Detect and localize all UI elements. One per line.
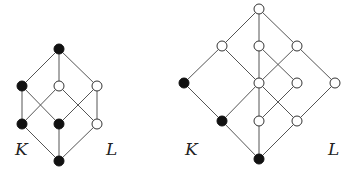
open-node bbox=[92, 81, 102, 91]
open-node bbox=[54, 81, 64, 91]
lattice-edge bbox=[222, 121, 259, 159]
labels-layer: KLKL bbox=[14, 139, 339, 159]
left-lattice-edges bbox=[22, 49, 97, 161]
open-node bbox=[254, 78, 264, 88]
filled-node bbox=[17, 119, 27, 129]
open-node bbox=[292, 78, 302, 88]
lattice-edge bbox=[259, 9, 297, 46]
lattice-edge bbox=[59, 124, 97, 161]
lattice-edge bbox=[222, 46, 259, 83]
right-lattice-label-l: L bbox=[327, 139, 339, 159]
filled-node bbox=[17, 81, 27, 91]
left-lattice-label-l: L bbox=[105, 139, 117, 159]
lattice-edge bbox=[184, 46, 222, 83]
nodes-layer bbox=[17, 4, 340, 166]
lattice-edge bbox=[22, 49, 59, 86]
left-lattice-label-k: K bbox=[14, 139, 29, 159]
lattice-diagrams-canvas: KLKL bbox=[0, 0, 356, 175]
edges-layer bbox=[22, 9, 335, 161]
filled-node bbox=[217, 116, 227, 126]
right-lattice-label-k: K bbox=[184, 139, 199, 159]
open-node bbox=[217, 41, 227, 51]
open-node bbox=[254, 116, 264, 126]
open-node bbox=[292, 116, 302, 126]
open-node bbox=[330, 78, 340, 88]
lattice-edge bbox=[59, 49, 97, 86]
open-node bbox=[92, 119, 102, 129]
lattice-edge bbox=[297, 46, 335, 83]
open-node bbox=[254, 4, 264, 14]
lattice-edge bbox=[259, 121, 297, 159]
filled-node bbox=[179, 78, 189, 88]
filled-node bbox=[254, 154, 264, 164]
filled-node bbox=[54, 44, 64, 54]
lattice-edge bbox=[222, 9, 259, 46]
filled-node bbox=[54, 119, 64, 129]
open-node bbox=[292, 41, 302, 51]
open-node bbox=[254, 41, 264, 51]
lattice-edge bbox=[297, 83, 335, 121]
filled-node bbox=[54, 156, 64, 166]
lattice-edge bbox=[222, 83, 259, 121]
lattice-edge bbox=[184, 83, 222, 121]
